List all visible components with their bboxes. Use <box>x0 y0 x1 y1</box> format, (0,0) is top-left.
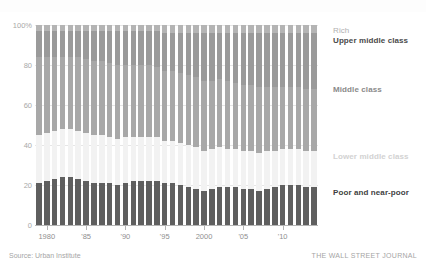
bar-segment <box>296 149 302 185</box>
bar-segment <box>178 33 184 73</box>
bar-segment <box>83 59 89 133</box>
bar-segment <box>44 31 50 57</box>
bar-segment <box>162 141 168 183</box>
x-tick-label-1995: '95 <box>160 232 170 241</box>
bar-segment <box>303 33 309 89</box>
bar-segment <box>146 25 152 31</box>
bar-segment <box>201 25 207 33</box>
bar-column <box>233 25 239 225</box>
bar-segment <box>193 25 199 33</box>
bar-segment <box>131 31 137 65</box>
bar-column <box>99 25 105 225</box>
bar-segment <box>36 25 42 31</box>
bar-segment <box>60 25 66 31</box>
top-margin <box>0 0 426 12</box>
bar-segment <box>52 25 58 31</box>
bar-segment <box>115 31 121 65</box>
bar-segment <box>296 185 302 225</box>
bar-segment <box>256 33 262 87</box>
bar-segment <box>99 25 105 31</box>
x-tick-label-2010: '10 <box>278 232 288 241</box>
bar-segment <box>209 189 215 225</box>
legend-label-lower-middle-class: Lower middle class <box>333 152 409 161</box>
bar-segment <box>99 61 105 135</box>
bar-segment <box>209 149 215 189</box>
bar-segment <box>280 185 286 225</box>
bar-segment <box>162 25 168 33</box>
bar-segment <box>44 57 50 133</box>
bar-segment <box>233 149 239 187</box>
bar-segment <box>75 57 81 131</box>
bar-segment <box>225 187 231 225</box>
x-tick-label-1985: '85 <box>81 232 91 241</box>
bar-segment <box>272 25 278 33</box>
bar-column <box>162 25 168 225</box>
bar-segment <box>264 151 270 189</box>
bar-segment <box>178 73 184 143</box>
bar-segment <box>311 89 317 151</box>
bar-segment <box>75 131 81 179</box>
bar-segment <box>83 25 89 31</box>
bar-segment <box>248 25 254 33</box>
publisher-brand: THE WALL STREET JOURNAL <box>312 252 417 259</box>
bar-column <box>241 25 247 225</box>
bar-segment <box>288 33 294 87</box>
bar-column <box>52 25 58 225</box>
bar-column <box>209 25 215 225</box>
bar-segment <box>264 87 270 151</box>
bar-segment <box>256 153 262 191</box>
bar-column <box>303 25 309 225</box>
y-tick-label-40: 40 <box>10 141 32 150</box>
bar-segment <box>288 25 294 33</box>
bar-segment <box>225 81 231 149</box>
bar-segment <box>225 33 231 81</box>
bar-segment <box>201 191 207 225</box>
bar-segment <box>83 181 89 225</box>
bar-segment <box>60 31 66 57</box>
bar-segment <box>241 189 247 225</box>
bar-segment <box>107 183 113 225</box>
x-tick-mark-1980 <box>47 226 48 230</box>
bar-column <box>201 25 207 225</box>
bar-segment <box>303 25 309 33</box>
bar-segment <box>123 183 129 225</box>
bar-segment <box>60 57 66 129</box>
bar-segment <box>193 33 199 77</box>
bar-segment <box>154 67 160 137</box>
bar-segment <box>256 191 262 225</box>
bar-segment <box>296 87 302 149</box>
x-tick-label-2000: 2000 <box>196 232 213 241</box>
bar-segment <box>241 33 247 85</box>
bar-segment <box>217 33 223 79</box>
bar-column <box>107 25 113 225</box>
bar-segment <box>75 179 81 225</box>
bar-segment <box>131 181 137 225</box>
bar-segment <box>36 183 42 225</box>
bar-column <box>170 25 176 225</box>
bar-segment <box>248 189 254 225</box>
bar-segment <box>99 135 105 183</box>
bar-segment <box>107 63 113 137</box>
bar-column <box>178 25 184 225</box>
bar-column <box>44 25 50 225</box>
bar-segment <box>170 25 176 33</box>
bar-segment <box>52 179 58 225</box>
bar-segment <box>138 65 144 137</box>
bar-segment <box>209 81 215 149</box>
bar-column <box>217 25 223 225</box>
x-axis-line <box>35 225 318 226</box>
bar-segment <box>217 187 223 225</box>
bar-segment <box>217 79 223 147</box>
bar-segment <box>186 145 192 187</box>
x-tick-mark-2005 <box>243 226 244 230</box>
bar-column <box>146 25 152 225</box>
bar-segment <box>154 25 160 31</box>
bar-segment <box>272 33 278 87</box>
bar-segment <box>44 133 50 181</box>
bar-segment <box>241 25 247 33</box>
bar-column <box>186 25 192 225</box>
bar-segment <box>170 141 176 183</box>
bar-segment <box>115 139 121 185</box>
bar-segment <box>107 31 113 63</box>
legend-label-rich: Rich <box>333 26 349 35</box>
